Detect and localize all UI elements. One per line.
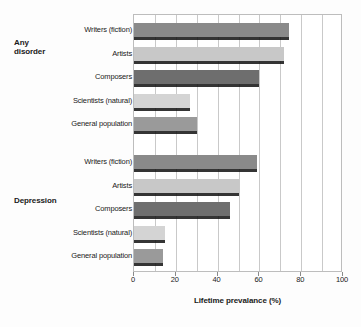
category-label-any-writers: Writers (fiction) (84, 25, 132, 34)
bar-shadow (134, 61, 284, 64)
x-tick-label: 0 (131, 275, 135, 284)
bar-fill (134, 47, 284, 61)
bar-shadow (134, 216, 230, 219)
bar-any-disorder-general-population (134, 117, 197, 134)
bar-fill (134, 179, 239, 193)
plot-area (133, 14, 342, 272)
bar-shadow (134, 193, 239, 196)
x-tick-label: 60 (254, 275, 262, 284)
x-tick-label: 20 (171, 275, 179, 284)
category-label-any-general: General population (71, 119, 132, 128)
group-label-any-disorder: Any disorder (14, 38, 45, 56)
category-label-any-artists: Artists (112, 49, 132, 58)
bar-depression-general-population (134, 249, 163, 266)
bar-fill (134, 117, 197, 131)
x-axis-title: Lifetime prevalance (%) (133, 296, 342, 305)
bar-shadow (134, 240, 165, 243)
category-label-any-composers: Composers (95, 72, 132, 81)
x-tick-label: 100 (336, 275, 348, 284)
bar-shadow (134, 131, 197, 134)
gridline (301, 15, 302, 271)
bar-fill (134, 70, 259, 84)
gridline (322, 15, 323, 271)
category-label-any-scientists: Scientists (natural) (73, 96, 132, 105)
category-label-dep-scientists: Scientists (natural) (73, 228, 132, 237)
bar-depression-composers (134, 202, 230, 219)
bar-fill (134, 226, 165, 240)
bar-fill (134, 155, 257, 169)
bar-shadow (134, 108, 190, 111)
bar-shadow (134, 37, 289, 40)
category-label-dep-composers: Composers (95, 204, 132, 213)
bar-shadow (134, 263, 163, 266)
x-tick-label: 40 (213, 275, 221, 284)
bar-any-disorder-composers (134, 70, 259, 87)
bar-fill (134, 23, 289, 37)
category-label-dep-general: General population (71, 251, 132, 260)
bar-shadow (134, 169, 257, 172)
bar-any-disorder-writers-fiction (134, 23, 289, 40)
bar-any-disorder-scientists-natural (134, 94, 190, 111)
bar-fill (134, 94, 190, 108)
group-label-depression: Depression (14, 196, 57, 205)
bar-depression-writers-fiction (134, 155, 257, 172)
chart-root: Any disorder Depression Writers (fiction… (0, 0, 361, 327)
x-tick-label: 80 (296, 275, 304, 284)
bar-any-disorder-artists (134, 47, 284, 64)
bar-fill (134, 202, 230, 216)
category-label-dep-writers: Writers (fiction) (84, 157, 132, 166)
bar-fill (134, 249, 163, 263)
bar-depression-artists (134, 179, 239, 196)
bar-depression-scientists-natural (134, 226, 165, 243)
category-label-dep-artists: Artists (112, 181, 132, 190)
bar-shadow (134, 84, 259, 87)
